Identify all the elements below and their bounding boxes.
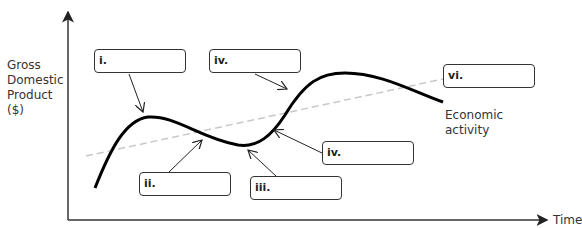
arrow-iv-top [255, 74, 287, 89]
curve-label: Economic activity [445, 108, 503, 138]
answer-box-vi[interactable]: vi. [443, 64, 535, 88]
box-label: ii. [144, 177, 156, 190]
answer-box-iii[interactable]: iii. [250, 176, 342, 200]
y-label-line: Gross [7, 58, 64, 73]
box-label: i. [99, 54, 107, 67]
box-label: iii. [255, 181, 271, 194]
arrow-iv-bottom [274, 130, 322, 153]
y-label-line: Product [7, 88, 64, 103]
y-label-line: ($) [7, 103, 64, 118]
box-label: iv. [327, 146, 341, 159]
y-label-line: Domestic [7, 73, 64, 88]
arrow-i [129, 74, 143, 112]
arrow-iii [248, 150, 276, 176]
curve-label-line: activity [445, 123, 503, 138]
box-label: vi. [448, 69, 463, 82]
answer-box-i[interactable]: i. [94, 49, 186, 73]
answer-box-ii[interactable]: ii. [139, 172, 231, 196]
box-label: iv. [214, 54, 228, 67]
curve-label-line: Economic [445, 108, 503, 123]
y-axis-label: Gross Domestic Product ($) [7, 58, 64, 118]
x-axis-label: Time [553, 213, 582, 228]
answer-box-iv-bottom[interactable]: iv. [322, 141, 414, 165]
arrow-ii [169, 140, 202, 172]
answer-box-iv-top[interactable]: iv. [209, 49, 301, 73]
